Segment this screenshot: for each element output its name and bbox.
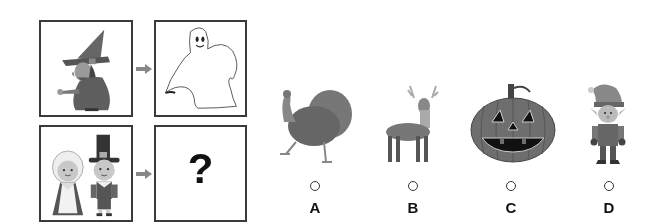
option-a-radio[interactable] — [310, 181, 320, 191]
option-c-radio[interactable] — [506, 181, 516, 191]
option-c-label[interactable]: C — [499, 199, 523, 216]
option-a-image[interactable] — [274, 82, 354, 166]
jack-o-lantern-icon — [468, 82, 558, 166]
right-arrow-icon — [136, 64, 152, 74]
ghost-icon — [156, 22, 245, 115]
elf-icon — [586, 80, 630, 168]
option-a-label[interactable]: A — [303, 199, 327, 216]
answer-placeholder-box: ? — [154, 125, 247, 222]
deer-icon — [380, 82, 442, 166]
witch-image-box — [39, 20, 133, 117]
question-mark: ? — [156, 145, 245, 193]
pilgrims-icon — [41, 127, 131, 220]
option-d-label[interactable]: D — [597, 199, 621, 216]
pilgrims-image-box — [39, 125, 133, 222]
option-b-radio[interactable] — [408, 181, 418, 191]
turkey-icon — [274, 82, 354, 166]
option-b-image[interactable] — [380, 82, 442, 166]
option-d-image[interactable] — [586, 80, 630, 168]
ghost-image-box — [154, 20, 247, 117]
option-c-image[interactable] — [468, 82, 558, 166]
option-d-radio[interactable] — [604, 181, 614, 191]
right-arrow-icon — [136, 169, 152, 179]
witch-icon — [41, 22, 131, 115]
option-b-label[interactable]: B — [401, 199, 425, 216]
